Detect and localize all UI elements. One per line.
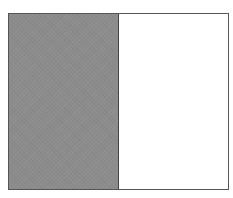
diagram-canvas [0,0,233,198]
partitioned-rectangle [8,13,229,190]
shaded-part [9,14,119,189]
unshaded-part [119,14,228,189]
